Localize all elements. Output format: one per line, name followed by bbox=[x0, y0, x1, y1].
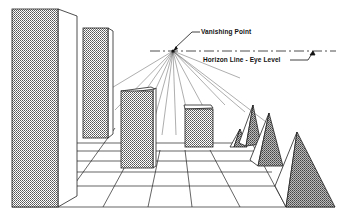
center-right-box bbox=[184, 105, 213, 147]
vanishing-point-label: Vanishing Point bbox=[201, 28, 251, 35]
center-box bbox=[121, 87, 156, 168]
near-left-tall-box bbox=[12, 9, 77, 207]
pyramid-2 bbox=[239, 105, 261, 146]
horizon-line-label: Horizon Line - Eye Level bbox=[203, 56, 281, 63]
far-left-tall-box bbox=[83, 28, 113, 138]
perspective-diagram: Vanishing Point Horizon Line - Eye Level bbox=[0, 0, 342, 216]
pyramid-4 bbox=[275, 132, 335, 207]
vanishing-point-marker bbox=[171, 32, 200, 53]
perspective-drawing bbox=[0, 0, 342, 216]
horizon-label-leader bbox=[290, 51, 315, 60]
